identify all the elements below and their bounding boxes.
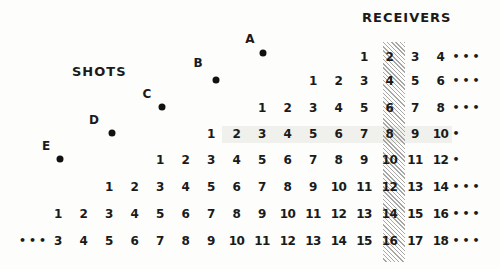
receiver-number: 5	[207, 181, 215, 193]
receiver-number: 5	[258, 154, 266, 166]
receiver-number-highlighted: 14	[382, 208, 398, 220]
receiver-number: 13	[356, 208, 372, 220]
receiver-number: 1	[309, 75, 317, 87]
continuation-dots: •••	[453, 181, 483, 192]
receiver-number: 1	[360, 51, 368, 63]
receiver-number: 6	[437, 75, 445, 87]
receiver-number-highlighted: 6	[386, 102, 394, 114]
receiver-number-highlighted: 10	[382, 154, 398, 166]
receiver-number: 8	[182, 235, 190, 247]
shot-label-c: C	[143, 88, 152, 100]
shots-label: SHOTS	[72, 65, 127, 78]
receiver-number: 2	[233, 128, 241, 140]
receiver-number: 10	[331, 181, 347, 193]
receiver-number: 10	[229, 235, 245, 247]
receiver-number: 4	[182, 181, 190, 193]
receiver-number: 7	[258, 181, 266, 193]
receiver-number: 8	[437, 102, 445, 114]
receiver-number: 5	[309, 128, 317, 140]
receiver-number: 4	[233, 154, 241, 166]
receiver-number: 8	[335, 154, 343, 166]
receiver-number: 1	[156, 154, 164, 166]
receiver-number: 3	[105, 208, 113, 220]
receiver-number: 7	[309, 154, 317, 166]
receiver-number: 8	[284, 181, 292, 193]
receiver-number: 3	[360, 75, 368, 87]
receiver-number: 2	[284, 102, 292, 114]
receiver-number: 3	[258, 128, 266, 140]
receiver-number: 6	[233, 181, 241, 193]
receiver-number: 14	[331, 235, 347, 247]
receiver-number: 7	[207, 208, 215, 220]
receiver-number: 16	[433, 208, 449, 220]
receiver-number: 4	[80, 235, 88, 247]
receiver-number: 9	[258, 208, 266, 220]
continuation-dots: •••	[453, 102, 483, 113]
receiver-number: 3	[156, 181, 164, 193]
receiver-number: 6	[182, 208, 190, 220]
receiver-number: 13	[305, 235, 321, 247]
receiver-number: 3	[207, 154, 215, 166]
receiver-number: 5	[156, 208, 164, 220]
receiver-number: 10	[280, 208, 296, 220]
receiver-number: 4	[437, 51, 445, 63]
receiver-number: 3	[54, 235, 62, 247]
shot-label-d: D	[89, 114, 99, 126]
receiver-number: 7	[156, 235, 164, 247]
receiver-number: 17	[407, 235, 423, 247]
receiver-number: 12	[331, 208, 347, 220]
receiver-number: 10	[433, 128, 449, 140]
receiver-number: 11	[305, 208, 321, 220]
continuation-dots: •	[453, 154, 463, 165]
receiver-number: 5	[360, 102, 368, 114]
shot-label-a: A	[245, 33, 254, 45]
shot-point-icon	[109, 130, 116, 137]
continuation-dots: •••	[453, 75, 483, 86]
receiver-number: 3	[309, 102, 317, 114]
receiver-number: 5	[411, 75, 419, 87]
receiver-number: 6	[284, 154, 292, 166]
receiver-number: 2	[80, 208, 88, 220]
receiver-number-highlighted: 4	[386, 75, 394, 87]
receiver-number: 5	[105, 235, 113, 247]
receiver-number: 6	[335, 128, 343, 140]
receiver-number: 7	[360, 128, 368, 140]
receiver-number: 4	[131, 208, 139, 220]
receiver-number: 2	[335, 75, 343, 87]
receiver-number: 1	[54, 208, 62, 220]
shot-receiver-diagram: RECEIVERS SHOTS ABCDE 1234•••123456•••12…	[0, 0, 500, 269]
shot-label-e: E	[42, 140, 50, 152]
shot-point-icon	[57, 156, 64, 163]
receiver-number-highlighted: 2	[386, 51, 394, 63]
receiver-number: 8	[233, 208, 241, 220]
receiver-number: 1	[207, 128, 215, 140]
receiver-number: 15	[407, 208, 423, 220]
receiver-number: 4	[335, 102, 343, 114]
continuation-dots-leading: •••	[19, 235, 49, 246]
shot-point-icon	[159, 104, 166, 111]
receiver-number: 15	[356, 235, 372, 247]
receiver-number: 18	[433, 235, 449, 247]
continuation-dots: •	[453, 128, 463, 139]
continuation-dots: •••	[453, 235, 483, 246]
receiver-number-highlighted: 12	[382, 181, 398, 193]
receiver-number: 14	[433, 181, 449, 193]
receiver-number: 11	[356, 181, 372, 193]
shot-point-icon	[213, 77, 220, 84]
receiver-number: 7	[411, 102, 419, 114]
receiver-number-highlighted: 8	[386, 128, 394, 140]
receiver-number: 13	[407, 181, 423, 193]
receivers-label: RECEIVERS	[362, 11, 451, 24]
receiver-number: 12	[433, 154, 449, 166]
receiver-number: 9	[309, 181, 317, 193]
receiver-number-highlighted: 16	[382, 235, 398, 247]
receiver-number: 11	[407, 154, 423, 166]
shot-point-icon	[260, 50, 267, 57]
receiver-number: 9	[360, 154, 368, 166]
receiver-number: 1	[258, 102, 266, 114]
receiver-number: 6	[131, 235, 139, 247]
receiver-number: 3	[411, 51, 419, 63]
receiver-number: 9	[411, 128, 419, 140]
receiver-number: 12	[280, 235, 296, 247]
receiver-number: 2	[131, 181, 139, 193]
